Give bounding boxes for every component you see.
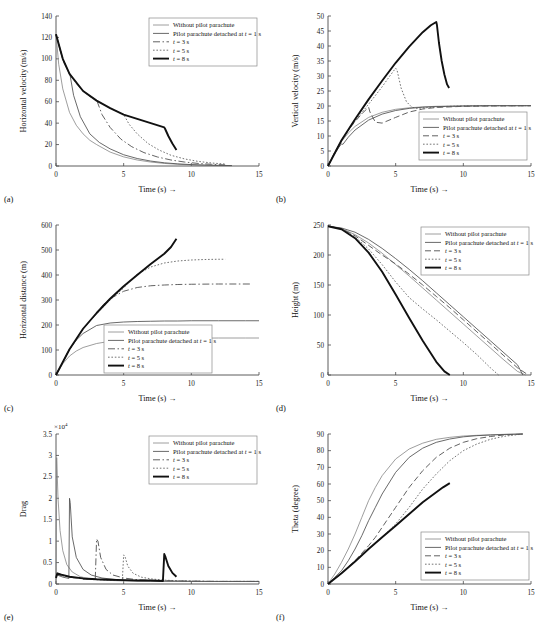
panel-c: 0510150100200300400500600Horizontal dist…: [0, 209, 271, 417]
svg-text:5: 5: [394, 171, 398, 179]
panel-label-a: (a): [4, 194, 14, 204]
svg-text:t = 8 s: t = 8 s: [445, 569, 462, 576]
panel-label-b: (b): [276, 194, 286, 204]
svg-text:t = 3 s: t = 3 s: [128, 345, 145, 352]
svg-text:t = 3 s: t = 3 s: [443, 132, 460, 139]
legend-e: Without pilot parachutePilot parachute d…: [149, 436, 261, 484]
svg-text:100: 100: [313, 312, 324, 320]
svg-text:3: 3: [48, 452, 52, 460]
svg-text:0: 0: [326, 380, 330, 388]
svg-text:10: 10: [188, 380, 196, 388]
series-e-solid: [56, 498, 259, 581]
legend-a: Without pilot parachutePilot parachute d…: [149, 18, 261, 66]
svg-text:3.5: 3.5: [43, 431, 52, 439]
svg-text:5: 5: [320, 148, 324, 156]
svg-text:Horizontal distance (m): Horizontal distance (m): [19, 261, 28, 339]
svg-text:15: 15: [527, 171, 535, 179]
svg-text:0: 0: [326, 589, 330, 597]
svg-text:5: 5: [122, 171, 126, 179]
svg-text:40: 40: [45, 120, 53, 128]
svg-text:200: 200: [41, 322, 52, 330]
svg-text:25: 25: [317, 88, 325, 96]
svg-text:20: 20: [317, 547, 325, 555]
svg-text:5: 5: [394, 589, 398, 597]
svg-text:Without pilot parachute: Without pilot parachute: [173, 21, 235, 28]
svg-text:5: 5: [394, 380, 398, 388]
svg-text:t = 8 s: t = 8 s: [173, 473, 190, 480]
legend-f: Without pilot parachutePilot parachute d…: [421, 532, 533, 580]
svg-text:2.5: 2.5: [43, 473, 52, 481]
svg-text:50: 50: [317, 342, 325, 350]
svg-text:Theta (degree): Theta (degree): [291, 485, 300, 533]
svg-text:10: 10: [317, 133, 325, 141]
svg-text:t = 5 s: t = 5 s: [445, 561, 462, 568]
panel-f: 0510150102030405060708090Theta (degree)T…: [272, 418, 543, 626]
svg-text:Pilot parachute detached at t: Pilot parachute detached at t = 1 s: [445, 544, 533, 551]
svg-text:t = 3 s: t = 3 s: [445, 552, 462, 559]
svg-text:5: 5: [122, 589, 126, 597]
svg-text:50: 50: [317, 13, 325, 21]
svg-text:120: 120: [41, 34, 52, 42]
svg-text:Pilot parachute detached at t: Pilot parachute detached at t = 1 s: [173, 30, 261, 37]
panel-d: 051015050100150200250Height (m)Time (s) …: [272, 209, 543, 417]
svg-text:400: 400: [41, 272, 52, 280]
svg-text:Without pilot parachute: Without pilot parachute: [173, 439, 235, 446]
svg-text:10: 10: [188, 589, 196, 597]
svg-text:0: 0: [54, 589, 58, 597]
svg-text:Time (s) →: Time (s) →: [411, 603, 449, 612]
svg-text:Time (s) →: Time (s) →: [139, 185, 177, 194]
svg-text:0: 0: [320, 581, 324, 589]
series-e-dashed: [56, 539, 259, 581]
svg-text:60: 60: [317, 481, 325, 489]
svg-text:10: 10: [317, 564, 325, 572]
svg-text:Without pilot parachute: Without pilot parachute: [445, 230, 507, 237]
svg-text:Time (s) →: Time (s) →: [411, 394, 449, 403]
series-e-dotted: [56, 555, 259, 582]
svg-text:Height (m): Height (m): [291, 282, 300, 318]
svg-text:0: 0: [326, 171, 330, 179]
svg-text:t = 5 s: t = 5 s: [173, 47, 190, 54]
svg-text:×104: ×104: [54, 422, 68, 431]
figure-container: 051015020406080100120140Horizontal veloc…: [0, 0, 543, 626]
svg-text:t = 8 s: t = 8 s: [445, 264, 462, 271]
svg-text:Vertical velocity (m/s): Vertical velocity (m/s): [291, 54, 300, 127]
panel-label-d: (d): [276, 403, 286, 413]
series-e-thick-solid: [56, 554, 176, 581]
svg-text:t = 3 s: t = 3 s: [173, 456, 190, 463]
svg-text:2: 2: [48, 495, 52, 503]
svg-text:15: 15: [527, 380, 535, 388]
svg-text:60: 60: [45, 98, 53, 106]
svg-text:t = 5 s: t = 5 s: [173, 465, 190, 472]
svg-text:0: 0: [54, 171, 58, 179]
svg-text:90: 90: [317, 431, 325, 439]
panel-b: 05101505101520253035404550Vertical veloc…: [272, 0, 543, 208]
svg-text:80: 80: [45, 77, 53, 85]
svg-text:50: 50: [317, 497, 325, 505]
svg-text:t = 3 s: t = 3 s: [445, 247, 462, 254]
legend-c: Without pilot parachutePilot parachute d…: [104, 325, 216, 373]
svg-text:20: 20: [45, 141, 53, 149]
svg-text:10: 10: [460, 380, 468, 388]
svg-text:15: 15: [255, 380, 263, 388]
svg-text:t = 8 s: t = 8 s: [443, 149, 460, 156]
svg-text:40: 40: [317, 514, 325, 522]
svg-text:t = 5 s: t = 5 s: [128, 354, 145, 361]
svg-text:30: 30: [317, 531, 325, 539]
svg-text:1: 1: [48, 538, 52, 546]
svg-text:140: 140: [41, 13, 52, 21]
svg-text:15: 15: [317, 118, 325, 126]
svg-text:t = 3 s: t = 3 s: [173, 38, 190, 45]
svg-text:Horizontal velocity (m/s): Horizontal velocity (m/s): [19, 49, 28, 132]
svg-text:1.5: 1.5: [43, 516, 52, 524]
svg-text:Time (s) →: Time (s) →: [139, 394, 177, 403]
svg-text:0.5: 0.5: [43, 559, 52, 567]
svg-text:0: 0: [48, 581, 52, 589]
svg-text:Without pilot parachute: Without pilot parachute: [443, 115, 505, 122]
svg-text:500: 500: [41, 247, 52, 255]
svg-text:5: 5: [122, 380, 126, 388]
panel-label-e: (e): [4, 612, 14, 622]
svg-text:100: 100: [41, 55, 52, 63]
svg-text:0: 0: [48, 163, 52, 171]
svg-text:250: 250: [313, 222, 324, 230]
svg-text:Pilot parachute detached at t: Pilot parachute detached at t = 1 s: [445, 239, 533, 246]
